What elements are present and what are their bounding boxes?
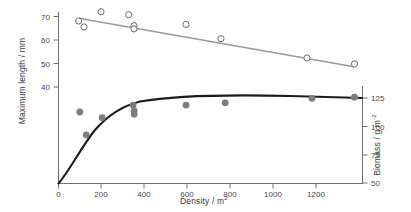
x-tick-label-1000: 1000 (264, 190, 282, 199)
data-point-open-circle (218, 36, 224, 42)
right-axis-title-base: Biomass / g m (372, 120, 382, 176)
data-point-open-circle (98, 9, 104, 15)
data-point-open-circle (183, 21, 189, 27)
x-axis-title-exponent: 2 (224, 195, 228, 201)
left-axis-ticks (54, 17, 59, 88)
maximum-length-points (76, 9, 358, 67)
bottom-axis-ticks (59, 184, 317, 189)
series-maximum-length (76, 9, 358, 67)
data-point-filled-circle (130, 102, 137, 109)
right-axis-ticks (363, 98, 368, 183)
biomass-trend-curve (59, 95, 363, 183)
data-point-open-circle (351, 61, 357, 67)
data-point-filled-circle (183, 102, 190, 109)
x-axis-title: Density / m2 (180, 196, 228, 206)
left-tick-label-60: 60 (41, 36, 50, 45)
right-axis-title-exponent: -2 (371, 114, 377, 120)
x-axis-title-base: Density / m (180, 196, 224, 206)
data-point-open-circle (304, 55, 310, 61)
data-point-open-circle (76, 18, 82, 24)
data-point-open-circle (126, 12, 132, 18)
x-tick-label-400: 400 (137, 190, 151, 199)
data-point-open-circle (81, 24, 87, 30)
left-axis-tick-labels: 70 60 50 40 (41, 13, 50, 93)
data-point-filled-circle (351, 94, 358, 101)
x-tick-label-200: 200 (94, 190, 108, 199)
data-point-filled-circle (83, 131, 90, 138)
data-point-filled-circle (309, 95, 316, 102)
data-point-filled-circle (131, 111, 138, 118)
left-tick-label-70: 70 (41, 13, 50, 22)
left-tick-label-50: 50 (41, 60, 50, 69)
data-point-open-circle (131, 26, 137, 32)
biomass-points (76, 94, 358, 138)
left-tick-label-40: 40 (41, 83, 50, 92)
x-tick-label-1200: 1200 (307, 190, 325, 199)
data-point-filled-circle (99, 114, 106, 121)
left-axis-title: Maximum length / mm (17, 21, 27, 141)
data-point-filled-circle (76, 109, 83, 116)
right-axis-title: Biomass / g m-2 (372, 85, 382, 205)
x-tick-label-0: 0 (56, 190, 61, 199)
chart-figure: 70 60 50 40 0 200 400 600 800 1000 1200 (0, 0, 411, 212)
data-point-filled-circle (222, 99, 229, 106)
series-biomass (59, 94, 363, 184)
chart-plot-area: 70 60 50 40 0 200 400 600 800 1000 1200 (0, 0, 411, 212)
maximum-length-trend-line (79, 18, 354, 66)
